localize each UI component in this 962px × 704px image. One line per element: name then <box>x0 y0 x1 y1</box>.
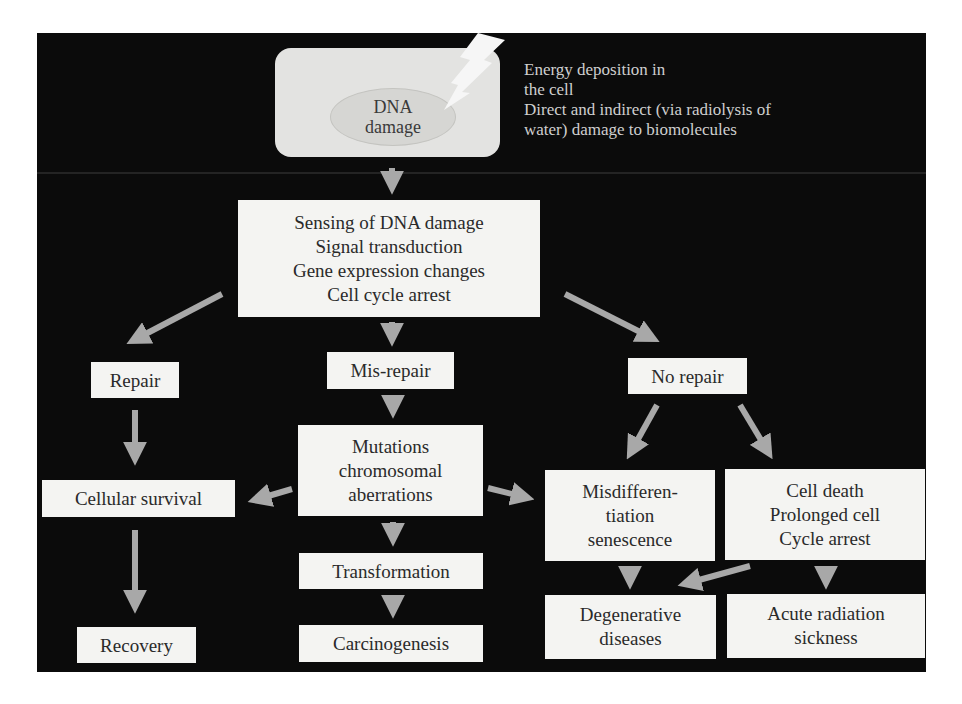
scan-artifact-line <box>37 172 926 174</box>
node-transformation: Transformation <box>299 553 483 589</box>
node-misrepair: Mis-repair <box>327 352 454 389</box>
annotation-line: the cell <box>524 80 914 100</box>
node-acute-radiation-sickness: Acute radiation sickness <box>727 594 925 658</box>
node-sensing: Sensing of DNA damage Signal transductio… <box>238 200 540 317</box>
node-mutations: Mutations chromosomal aberrations <box>298 425 483 516</box>
node-cellular-survival: Cellular survival <box>42 480 235 517</box>
annotation-line: water) damage to biomolecules <box>524 120 914 140</box>
annotation-line: Direct and indirect (via radiolysis of <box>524 100 914 120</box>
node-misdifferentiation: Misdifferen- tiation senescence <box>545 470 715 561</box>
node-cell-death: Cell death Prolonged cell Cycle arrest <box>725 469 925 560</box>
node-degenerative-diseases: Degenerative diseases <box>545 595 716 659</box>
node-repair: Repair <box>91 362 179 398</box>
energy-deposition-annotation: Energy deposition in the cell Direct and… <box>524 60 914 140</box>
dna-damage-nucleus: DNA damage <box>330 88 456 146</box>
node-carcinogenesis: Carcinogenesis <box>299 625 483 662</box>
node-no-repair: No repair <box>628 358 747 394</box>
annotation-line: Energy deposition in <box>524 60 914 80</box>
node-recovery: Recovery <box>77 627 196 663</box>
